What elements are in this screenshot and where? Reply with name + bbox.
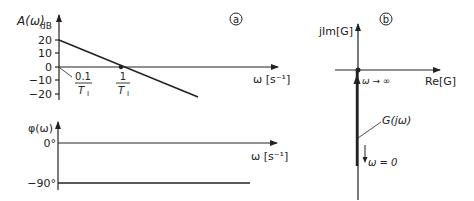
xtick-0.1-denominator: T: [78, 85, 85, 96]
magnitude-plot: 20 10 0 −10 −20 A(ω) dB ω [s⁻¹] 0.1 T I …: [16, 14, 290, 101]
omega-zero-label: ω = 0: [368, 157, 397, 168]
svg-text:b: b: [383, 14, 389, 25]
svg-text:I: I: [127, 90, 129, 98]
xtick-1-denominator: T: [118, 85, 125, 96]
figure: 20 10 0 −10 −20 A(ω) dB ω [s⁻¹] 0.1 T I …: [0, 0, 474, 201]
ytick-20: 20: [38, 34, 52, 47]
origin-point: [356, 68, 361, 73]
phase-x-label: ω [s⁻¹]: [251, 150, 288, 163]
svg-text:a: a: [233, 14, 239, 25]
omega-infinity-label: ω → ∞: [362, 76, 390, 86]
direction-arrow: [354, 74, 361, 84]
ytick-minus90deg: −90°: [27, 177, 56, 190]
magnitude-x-label: ω [s⁻¹]: [253, 73, 290, 86]
ytick-minus20: −20: [29, 88, 52, 101]
curve-leader: [358, 122, 381, 138]
ytick-10: 10: [38, 47, 52, 60]
ytick-0deg: 0°: [44, 137, 57, 150]
panel-a-marker: a: [230, 13, 242, 25]
panel-b-marker: b: [380, 13, 392, 25]
curve-label: G(jω): [382, 114, 411, 127]
magnitude-y-unit: dB: [40, 21, 52, 31]
xtick-0.1-numerator: 0.1: [75, 71, 91, 82]
ytick-minus10: −10: [29, 74, 52, 87]
leader-line: [60, 68, 72, 77]
crossover-point: [119, 65, 123, 69]
svg-text:I: I: [87, 90, 89, 98]
real-axis-label: Re[G]: [425, 75, 456, 88]
phase-plot: φ(ω) 0° −90° ω [s⁻¹]: [27, 122, 288, 190]
ytick-0: 0: [45, 61, 52, 74]
xtick-1-numerator: 1: [120, 71, 126, 82]
phase-y-label: φ(ω): [28, 122, 53, 135]
nyquist-plot: jIm[G] Re[G] ω → ∞ G(jω) ω = 0: [318, 24, 456, 200]
imag-axis-label: jIm[G]: [318, 25, 353, 38]
